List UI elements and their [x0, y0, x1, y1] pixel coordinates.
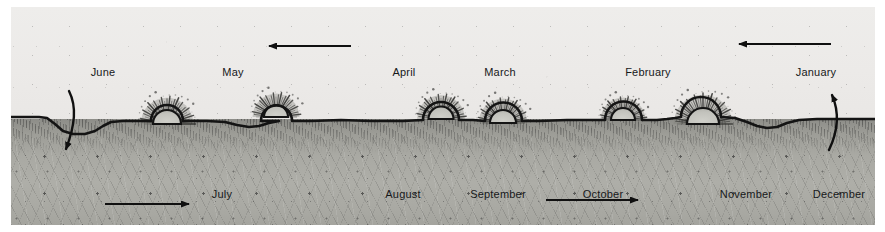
arrow-curve-left-icon	[66, 91, 74, 149]
month-label-january: January	[796, 66, 837, 78]
month-label-april: April	[392, 66, 415, 78]
month-label-march: March	[484, 66, 516, 78]
month-label-may: May	[222, 66, 243, 78]
sunrise-horizon-figure: JuneMayAprilMarchFebruaryJanuary JulyAug…	[0, 0, 885, 232]
month-label-december: December	[813, 188, 865, 200]
month-label-august: August	[385, 188, 420, 200]
month-label-october: October	[583, 188, 624, 200]
month-label-november: November	[720, 188, 772, 200]
scanned-plate: JuneMayAprilMarchFebruaryJanuary JulyAug…	[11, 7, 875, 225]
arrow-curve-right-icon	[829, 95, 837, 150]
month-label-september: September	[470, 188, 526, 200]
sun-sun-6	[671, 89, 736, 126]
month-label-february: February	[625, 66, 671, 78]
sun-sun-2	[250, 87, 303, 119]
month-label-june: June	[91, 66, 116, 78]
month-label-july: July	[212, 188, 232, 200]
